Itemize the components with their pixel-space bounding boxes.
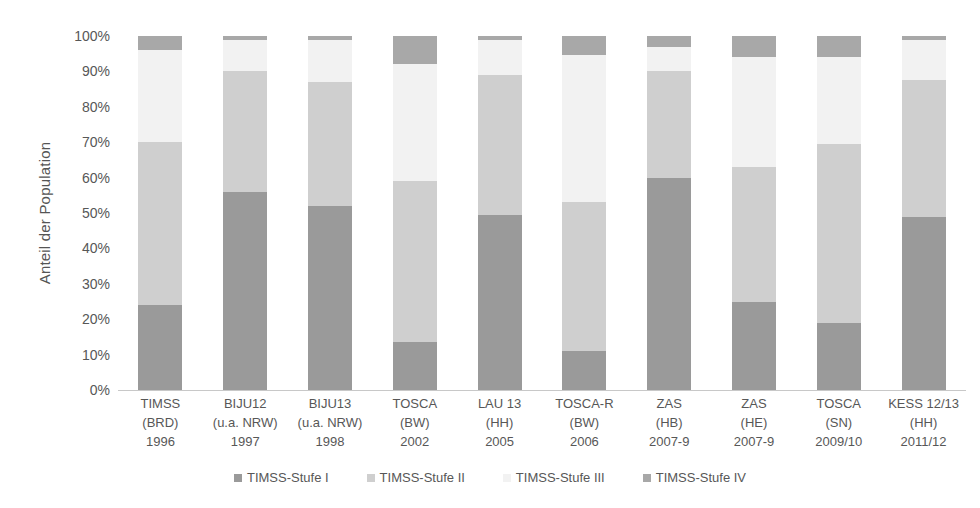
bar-segment[interactable]: [562, 351, 606, 390]
x-axis-label-line: TOSCA: [372, 394, 457, 413]
bar-segment[interactable]: [902, 80, 946, 216]
bar-segment[interactable]: [732, 167, 776, 302]
legend-label: TIMSS-Stufe IV: [656, 470, 746, 485]
bar-segment[interactable]: [732, 36, 776, 57]
x-axis-category-label: TIMSS(BRD)1996: [118, 394, 203, 456]
y-axis-tick: 50%: [52, 205, 110, 221]
bar-stack[interactable]: [647, 36, 691, 390]
x-axis-label-line: LAU 13: [457, 394, 542, 413]
bar-stack[interactable]: [817, 36, 861, 390]
bar-stack[interactable]: [478, 36, 522, 390]
legend-swatch-icon: [234, 474, 242, 482]
bar-stack[interactable]: [562, 36, 606, 390]
bar-segment[interactable]: [732, 302, 776, 391]
y-axis-tick-labels: 100%90%80%70%60%50%40%30%20%10%0%: [52, 36, 110, 390]
x-axis-category-label: TOSCA(SN)2009/10: [796, 394, 881, 456]
stacked-bar-chart: Anteil der Population 100%90%80%70%60%50…: [0, 0, 980, 508]
bar-segment[interactable]: [393, 36, 437, 64]
x-axis-label-line: 2007-9: [712, 432, 797, 451]
x-axis-label-line: BIJU12: [203, 394, 288, 413]
bar-segment[interactable]: [562, 202, 606, 351]
bar-segment[interactable]: [902, 217, 946, 390]
bar-segment[interactable]: [223, 192, 267, 390]
legend-label: TIMSS-Stufe II: [380, 470, 465, 485]
legend-swatch-icon: [503, 474, 511, 482]
legend-item[interactable]: TIMSS-Stufe IV: [643, 470, 746, 485]
bar-segment[interactable]: [393, 181, 437, 342]
bar-segment[interactable]: [393, 64, 437, 181]
x-axis-label-line: 2005: [457, 432, 542, 451]
bar-stack[interactable]: [308, 36, 352, 390]
bar-slot: [542, 36, 627, 390]
chart-legend: TIMSS-Stufe ITIMSS-Stufe IITIMSS-Stufe I…: [0, 470, 980, 485]
bar-segment[interactable]: [138, 36, 182, 50]
x-axis-label-line: (BRD): [118, 413, 203, 432]
bar-segment[interactable]: [817, 323, 861, 390]
bar-segment[interactable]: [647, 71, 691, 177]
bar-slot: [288, 36, 373, 390]
x-axis-label-line: KESS 12/13: [881, 394, 966, 413]
y-axis-tick: 10%: [52, 347, 110, 363]
y-axis-tick: 100%: [52, 28, 110, 44]
bar-slot: [881, 36, 966, 390]
bar-segment[interactable]: [647, 47, 691, 72]
y-axis-tick: 70%: [52, 134, 110, 150]
bar-segment[interactable]: [647, 36, 691, 47]
x-axis-label-line: TOSCA-R: [542, 394, 627, 413]
x-axis-label-line: 2006: [542, 432, 627, 451]
bar-stack[interactable]: [732, 36, 776, 390]
y-axis-tick: 80%: [52, 99, 110, 115]
legend-swatch-icon: [367, 474, 375, 482]
bar-slot: [118, 36, 203, 390]
x-axis-category-labels: TIMSS(BRD)1996BIJU12(u.a. NRW)1997BIJU13…: [118, 394, 966, 456]
x-axis-category-label: LAU 13(HH)2005: [457, 394, 542, 456]
x-axis-label-line: ZAS: [712, 394, 797, 413]
bar-group: [118, 36, 966, 390]
x-axis-category-label: ZAS(HE)2007-9: [712, 394, 797, 456]
x-axis-category-label: BIJU12(u.a. NRW)1997: [203, 394, 288, 456]
bar-segment[interactable]: [138, 305, 182, 390]
bar-slot: [203, 36, 288, 390]
bar-stack[interactable]: [902, 36, 946, 390]
bar-segment[interactable]: [902, 40, 946, 81]
legend-item[interactable]: TIMSS-Stufe I: [234, 470, 329, 485]
x-axis-label-line: (HB): [627, 413, 712, 432]
bar-segment[interactable]: [308, 82, 352, 206]
bar-segment[interactable]: [478, 40, 522, 75]
bar-segment[interactable]: [732, 57, 776, 167]
x-axis-label-line: 2009/10: [796, 432, 881, 451]
x-axis-label-line: TOSCA: [796, 394, 881, 413]
bar-stack[interactable]: [138, 36, 182, 390]
x-axis-line: [118, 390, 966, 391]
bar-segment[interactable]: [223, 40, 267, 72]
bar-segment[interactable]: [393, 342, 437, 390]
bar-segment[interactable]: [308, 40, 352, 82]
bar-segment[interactable]: [562, 36, 606, 55]
x-axis-label-line: TIMSS: [118, 394, 203, 413]
bar-slot: [796, 36, 881, 390]
x-axis-label-line: 2002: [372, 432, 457, 451]
bar-segment[interactable]: [817, 144, 861, 323]
x-axis-label-line: (HH): [881, 413, 966, 432]
bar-segment[interactable]: [308, 206, 352, 390]
bar-segment[interactable]: [817, 36, 861, 57]
bar-segment[interactable]: [562, 55, 606, 202]
legend-swatch-icon: [643, 474, 651, 482]
bar-segment[interactable]: [138, 50, 182, 142]
y-axis-tick: 60%: [52, 170, 110, 186]
legend-item[interactable]: TIMSS-Stufe III: [503, 470, 605, 485]
bar-segment[interactable]: [478, 75, 522, 215]
bar-segment[interactable]: [223, 71, 267, 191]
bar-stack[interactable]: [223, 36, 267, 390]
x-axis-label-line: 1998: [288, 432, 373, 451]
y-axis-tick: 0%: [52, 382, 110, 398]
bar-segment[interactable]: [138, 142, 182, 305]
x-axis-label-line: 1997: [203, 432, 288, 451]
legend-item[interactable]: TIMSS-Stufe II: [367, 470, 465, 485]
bar-segment[interactable]: [478, 215, 522, 390]
x-axis-category-label: BIJU13(u.a. NRW)1998: [288, 394, 373, 456]
bar-stack[interactable]: [393, 36, 437, 390]
x-axis-category-label: ZAS(HB)2007-9: [627, 394, 712, 456]
bar-segment[interactable]: [647, 178, 691, 390]
bar-segment[interactable]: [817, 57, 861, 144]
